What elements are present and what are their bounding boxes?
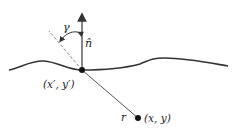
- angle-label: γ: [63, 21, 70, 34]
- distance-line: [82, 70, 138, 118]
- source-point-label: (x′, y′): [43, 78, 75, 90]
- field-point-dot: [135, 115, 141, 121]
- dashed-extension-line: [49, 31, 82, 70]
- normal-label: n̂: [85, 37, 92, 50]
- diagram-canvas: γ n̂ (x′, y′) r (x, y): [0, 0, 234, 130]
- boundary-curve: [9, 58, 228, 70]
- source-point-dot: [79, 67, 85, 73]
- distance-label: r: [121, 111, 127, 123]
- field-point-label: (x, y): [144, 112, 171, 124]
